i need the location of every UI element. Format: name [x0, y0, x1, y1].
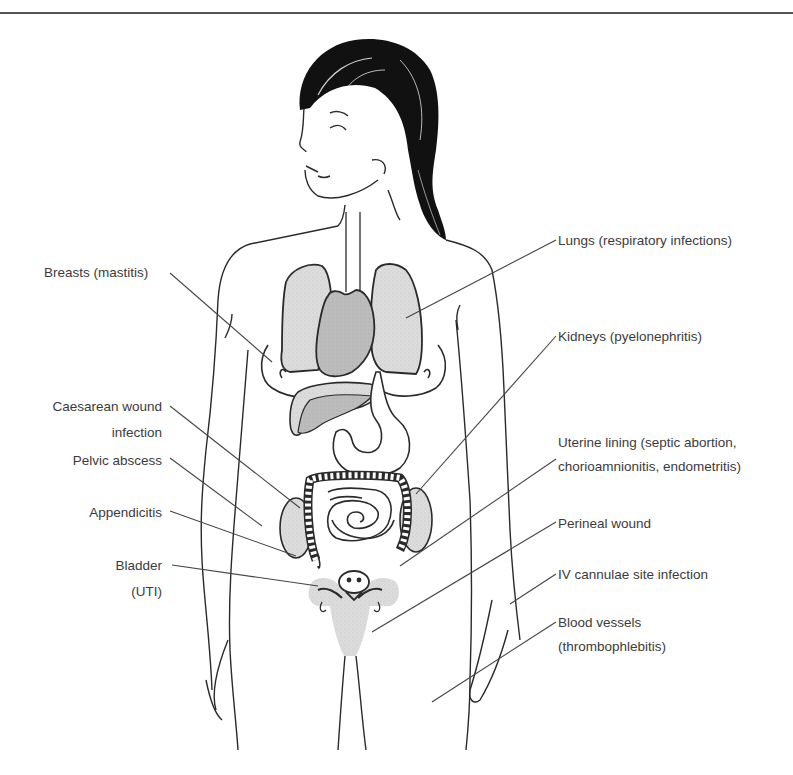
label-text: (thrombophlebitis) — [558, 636, 666, 658]
label-bladder: Bladder (UTI) — [36, 555, 162, 603]
heart — [316, 290, 374, 376]
small-intestine — [328, 488, 394, 541]
label-text: (UTI) — [36, 581, 162, 603]
label-lungs: Lungs (respiratory infections) — [558, 230, 732, 252]
label-text: infection — [36, 422, 162, 444]
label-appendicitis: Appendicitis — [36, 502, 162, 524]
label-pelvic-abscess: Pelvic abscess — [36, 450, 162, 472]
label-kidneys: Kidneys (pyelonephritis) — [558, 326, 702, 348]
label-uterine-lining: Uterine lining (septic abortion, chorioa… — [558, 432, 741, 478]
hair — [300, 39, 446, 240]
label-blood-vessels: Blood vessels (thrombophlebitis) — [558, 612, 666, 658]
label-text: Perineal wound — [558, 516, 651, 531]
label-iv-cannulae: IV cannulae site infection — [558, 564, 708, 586]
label-text: Lungs (respiratory infections) — [558, 233, 732, 248]
face — [300, 108, 400, 226]
label-text: Pelvic abscess — [73, 453, 162, 468]
label-text: Kidneys (pyelonephritis) — [558, 329, 702, 344]
label-text: Breasts (mastitis) — [44, 265, 148, 280]
label-text: Appendicitis — [89, 505, 162, 520]
label-text: Uterine lining (septic abortion, — [558, 432, 741, 454]
label-text: chorioamnionitis, endometritis) — [558, 456, 741, 478]
trachea — [346, 212, 360, 292]
label-text: Caesarean wound — [36, 396, 162, 418]
label-breasts: Breasts (mastitis) — [44, 262, 148, 284]
label-text: Bladder — [36, 555, 162, 577]
liver — [290, 382, 378, 435]
label-text: IV cannulae site infection — [558, 567, 708, 582]
label-caesarean-wound: Caesarean wound infection — [36, 396, 162, 444]
label-text: Blood vessels — [558, 612, 666, 634]
anatomy-figure — [0, 0, 793, 775]
label-perineal-wound: Perineal wound — [558, 513, 651, 535]
